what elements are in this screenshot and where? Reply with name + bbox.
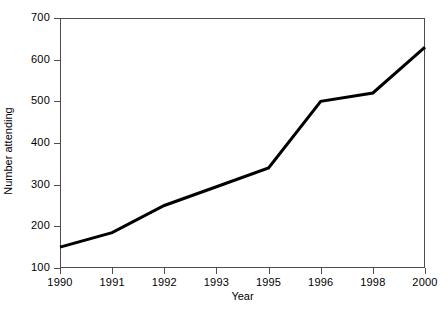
x-axis-tick-label: 1991 (87, 277, 137, 288)
x-axis-tick-mark (60, 268, 61, 274)
series-line-number-attending (60, 47, 425, 247)
y-axis-tick-label: 400 (12, 137, 50, 148)
y-axis-tick-label: 100 (12, 262, 50, 273)
y-axis-tick-label: 500 (12, 95, 50, 106)
y-axis-tick-label: 700 (12, 12, 50, 23)
x-axis-tick-label: 1995 (244, 277, 294, 288)
x-axis-tick-mark (216, 268, 217, 274)
x-axis-tick-mark (321, 268, 322, 274)
x-axis-tick-mark (269, 268, 270, 274)
x-axis-tick-label: 1996 (296, 277, 346, 288)
line-chart-figure: 1002003004005006007001990199119921993199… (0, 0, 448, 314)
x-axis-tick-mark (164, 268, 165, 274)
x-axis-tick-label: 1990 (35, 277, 85, 288)
x-axis-title: Year (60, 290, 425, 302)
x-axis-tick-label: 2000 (400, 277, 448, 288)
y-axis-tick-label: 300 (12, 179, 50, 190)
x-axis-tick-mark (373, 268, 374, 274)
data-series-layer (60, 18, 425, 268)
y-axis-tick-label: 200 (12, 220, 50, 231)
series-svg (60, 18, 425, 268)
y-axis-tick-label: 600 (12, 54, 50, 65)
x-axis-tick-mark (112, 268, 113, 274)
x-axis-tick-label: 1998 (348, 277, 398, 288)
y-axis-title: Number attending (0, 26, 16, 276)
x-axis-tick-label: 1992 (139, 277, 189, 288)
x-axis-tick-mark (425, 268, 426, 274)
x-axis-tick-label: 1993 (191, 277, 241, 288)
